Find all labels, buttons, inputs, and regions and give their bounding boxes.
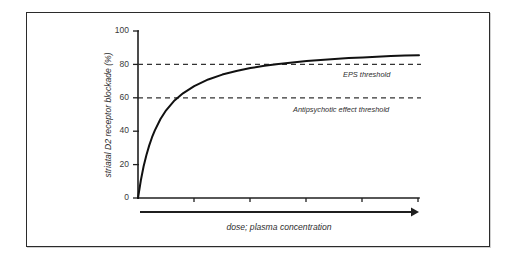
y-axis-tick-label-0: 0 [124, 192, 129, 202]
figure-root: 100 80 60 40 20 0 striatal D2 receptor b… [0, 0, 516, 263]
x-axis: dose; plasma concentration [138, 198, 419, 232]
y-axis-tick-label-40: 40 [120, 125, 130, 135]
eps-threshold-label: EPS threshold [343, 70, 391, 79]
y-axis: 100 80 60 40 20 0 striatal D2 receptor b… [103, 25, 139, 202]
x-axis-direction-arrow-icon [140, 208, 419, 217]
y-axis-tick-label-100: 100 [115, 25, 129, 35]
y-axis-tick-label-80: 80 [120, 59, 130, 69]
dose-response-chart: 100 80 60 40 20 0 striatal D2 receptor b… [0, 0, 516, 263]
y-axis-tick-label-20: 20 [120, 159, 130, 169]
annotation-labels: EPS threshold Antipsychotic effect thres… [292, 70, 391, 114]
antipsychotic-effect-threshold-label: Antipsychotic effect threshold [292, 105, 390, 114]
arrow-head [411, 208, 419, 217]
y-axis-tick-label-60: 60 [120, 92, 130, 102]
y-axis-title: striatal D2 receptor blockade (%) [103, 52, 113, 177]
x-axis-title: dose; plasma concentration [226, 222, 331, 232]
